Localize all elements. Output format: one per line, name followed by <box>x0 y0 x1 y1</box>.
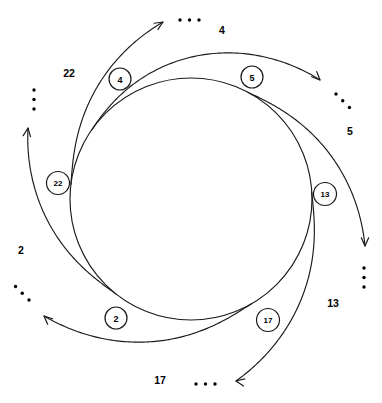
ring-spiral-diagram: 451317222 224513172 <box>0 0 382 403</box>
edge-label-2: 2 <box>18 244 24 256</box>
node-2-label: 2 <box>113 314 118 324</box>
spiral-arc-layer <box>28 22 365 381</box>
node-17-label: 17 <box>264 316 273 325</box>
spiral-arc-13 <box>236 193 314 381</box>
ellipsis-dot <box>32 98 35 101</box>
ellipsis-5 <box>362 266 365 288</box>
ellipsis-dot <box>204 382 207 385</box>
ellipsis-dot <box>213 382 216 385</box>
ellipsis-2 <box>32 88 35 110</box>
ellipsis-dot <box>32 107 35 110</box>
spiral-arc-5 <box>248 92 365 246</box>
ellipsis-dot <box>178 18 181 21</box>
edge-label-22: 22 <box>63 67 75 79</box>
edge-label-17: 17 <box>154 374 166 386</box>
ellipsis-dot <box>21 292 24 295</box>
node-13-label: 13 <box>321 190 330 199</box>
arrowhead-22 <box>154 22 163 29</box>
ellipsis-dot <box>341 99 344 102</box>
node-4[interactable]: 4 <box>109 68 131 90</box>
edge-label-5: 5 <box>347 125 353 137</box>
ellipsis-dot <box>27 298 30 301</box>
ellipsis-dot <box>334 92 337 95</box>
ellipsis-22 <box>178 18 200 21</box>
ellipsis-dot <box>197 18 200 21</box>
edge-label-13: 13 <box>327 297 339 309</box>
node-22[interactable]: 22 <box>47 172 70 195</box>
ellipsis-dot <box>14 285 17 288</box>
node-4-label: 4 <box>117 75 122 85</box>
ellipsis-dot <box>32 88 35 91</box>
ellipsis-17 <box>14 285 31 302</box>
arrowhead-layer <box>23 22 368 386</box>
ellipsis-4 <box>334 92 351 109</box>
diagram-canvas: 451317222 224513172 <box>0 0 382 403</box>
spiral-arc-17 <box>44 304 252 342</box>
inner-ring-layer <box>70 78 312 320</box>
edge-label-4: 4 <box>219 24 225 36</box>
ellipsis-dot <box>362 285 365 288</box>
ellipsis-13 <box>194 382 216 385</box>
node-17[interactable]: 17 <box>257 309 280 332</box>
ellipsis-dot <box>362 266 365 269</box>
ellipsis-dot <box>188 18 191 21</box>
spiral-arc-4 <box>92 53 320 130</box>
ellipsis-dot <box>348 106 351 109</box>
ellipsis-dot <box>194 382 197 385</box>
arrowhead-2 <box>23 128 30 137</box>
node-13[interactable]: 13 <box>314 183 337 206</box>
ellipsis-dot <box>362 276 365 279</box>
node-2[interactable]: 2 <box>105 307 127 329</box>
node-22-label: 22 <box>54 179 63 188</box>
node-5-label: 5 <box>249 73 254 83</box>
spiral-arc-2 <box>28 128 117 294</box>
node-5[interactable]: 5 <box>241 66 263 88</box>
node-layer: 451317222 <box>47 66 337 332</box>
inner-circle <box>70 78 312 320</box>
